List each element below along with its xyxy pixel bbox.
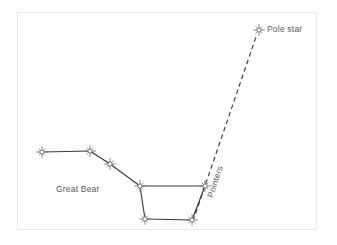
star-burst-icon bbox=[37, 147, 48, 158]
diagram-canvas bbox=[0, 0, 337, 245]
segment-phecda-merak bbox=[145, 219, 192, 220]
pole-star-burst-icon bbox=[254, 25, 265, 36]
segment-alkaid-mizar bbox=[42, 151, 90, 152]
segment-mizar-alioth bbox=[90, 151, 110, 164]
star-burst-icon bbox=[187, 215, 198, 226]
star-burst-icon bbox=[135, 181, 146, 192]
star-markers bbox=[37, 25, 265, 226]
star-burst-icon bbox=[85, 146, 96, 157]
segment-megrez-phecda bbox=[140, 186, 145, 219]
star-burst-icon bbox=[105, 159, 116, 170]
great-bear-label: Great Bear bbox=[56, 185, 100, 194]
star-burst-icon bbox=[140, 214, 151, 225]
pole-star-label: Pole star bbox=[267, 25, 302, 34]
constellation-diagram: Pole star Great Bear Pointers bbox=[0, 0, 337, 245]
segment-alioth-megrez bbox=[110, 164, 140, 186]
segment-merak-dubhe bbox=[192, 186, 205, 220]
